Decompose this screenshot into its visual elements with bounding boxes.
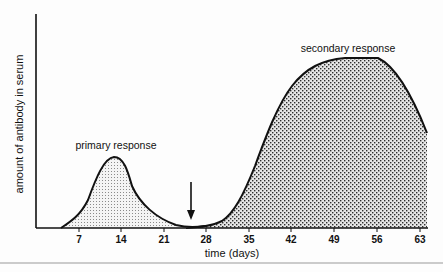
primary-response-label: primary response (75, 139, 156, 151)
primary-response-area (61, 157, 200, 228)
secondary-response-label: secondary response (301, 42, 396, 54)
x-axis-title: time (days) (205, 247, 259, 259)
secondary-response-area (186, 58, 427, 228)
x-tick-label: 35 (243, 234, 255, 245)
x-tick-label: 42 (285, 234, 297, 245)
x-tick-label: 28 (200, 234, 212, 245)
x-tick-label: 7 (76, 234, 82, 245)
x-tick-label: 63 (414, 234, 426, 245)
x-tick-label: 49 (328, 234, 340, 245)
antibody-response-chart: 7 14 21 28 35 42 49 56 63 time (days) am… (0, 0, 443, 272)
x-tick-label: 14 (115, 234, 127, 245)
down-arrow-icon (187, 182, 195, 220)
y-axis-title: amount of antibody in serum (13, 55, 25, 194)
x-tick-label: 56 (371, 234, 383, 245)
x-tick-label: 21 (158, 234, 170, 245)
